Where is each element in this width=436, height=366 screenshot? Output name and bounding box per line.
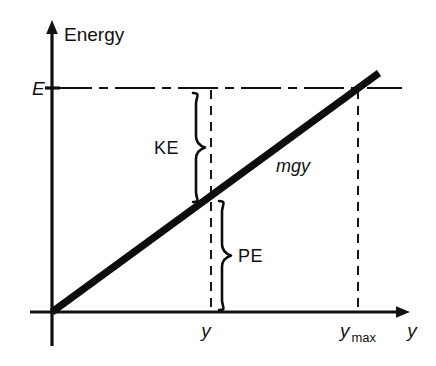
pe-curly-brace-icon: [219, 201, 231, 310]
y-axis-title: Energy: [64, 24, 125, 45]
ke-curly-brace-icon: [193, 93, 205, 202]
energy-diagram-figure: Energy E KE PE mgy y ymax y: [0, 0, 436, 366]
pe-brace-group: [219, 201, 231, 310]
y-axis-arrowhead-icon: [46, 20, 58, 34]
y-axis-tick-label-E: E: [32, 78, 45, 99]
x-axis-title: y: [405, 320, 418, 341]
mgy-line-label: mgy: [276, 156, 311, 176]
mgy-line-group: [52, 73, 379, 312]
x-axis-tick-label-ymax: ymax: [338, 320, 377, 345]
axes-group: [30, 20, 410, 346]
x-axis-tick-label-ymax-subscript: max: [352, 330, 377, 345]
x-axis-arrowhead-icon: [396, 306, 410, 318]
energy-diagram-canvas: Energy E KE PE mgy y ymax y: [0, 0, 436, 366]
x-axis-tick-label-y: y: [199, 320, 212, 341]
ke-brace-group: [193, 93, 205, 202]
mgy-line: [52, 73, 379, 312]
ke-label: KE: [154, 138, 179, 158]
pe-label: PE: [238, 246, 263, 266]
x-axis-tick-label-ymax-base: y: [338, 320, 351, 341]
